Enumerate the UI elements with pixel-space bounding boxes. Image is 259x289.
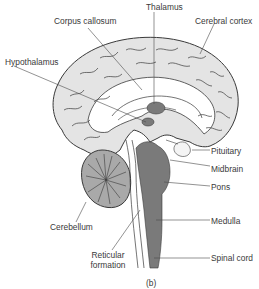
pituitary-stalk (166, 140, 178, 144)
panel-label: (b) (146, 278, 156, 288)
cerebellum-shape (82, 150, 131, 208)
label-pituitary: Pituitary (211, 146, 241, 156)
pituitary-shape (174, 142, 190, 157)
label-thalamus: Thalamus (146, 2, 183, 12)
hypothalamus-shape (142, 118, 154, 126)
label-cerebellum: Cerebellum (50, 222, 93, 232)
label-reticular-formation: Reticular formation (86, 250, 130, 270)
label-corpus-callosum: Corpus callosum (54, 16, 116, 26)
label-pons: Pons (211, 182, 230, 192)
label-medulla: Medulla (211, 216, 240, 226)
brain-diagram (0, 0, 259, 289)
label-spinal-cord: Spinal cord (211, 253, 253, 263)
label-reticular-line1: Reticular (86, 250, 130, 260)
label-midbrain: Midbrain (211, 164, 243, 174)
label-cerebral-cortex: Cerebral cortex (195, 16, 252, 26)
brainstem-shape (136, 142, 170, 268)
thalamus-shape (147, 102, 165, 114)
label-reticular-line2: formation (86, 260, 130, 270)
label-hypothalamus: Hypothalamus (5, 57, 59, 67)
